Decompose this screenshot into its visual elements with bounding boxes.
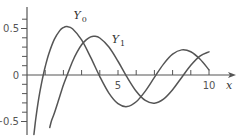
bessel-y-chart: 0.50−0.5510x Y0Y1: [0, 0, 240, 138]
axes: [27, 7, 236, 135]
curve-label-y0: Y0: [73, 9, 86, 24]
x-axis-label: x: [226, 79, 233, 92]
x-tick-label: 10: [203, 80, 216, 91]
y-tick-label: 0.5: [3, 23, 19, 34]
y-tick-label: −0.5: [0, 116, 19, 127]
curve-label-y1: Y1: [112, 33, 125, 48]
curve-labels: Y0Y1: [73, 9, 125, 48]
x-tick-label: 5: [115, 80, 121, 91]
y-tick-label: 0: [13, 70, 19, 81]
